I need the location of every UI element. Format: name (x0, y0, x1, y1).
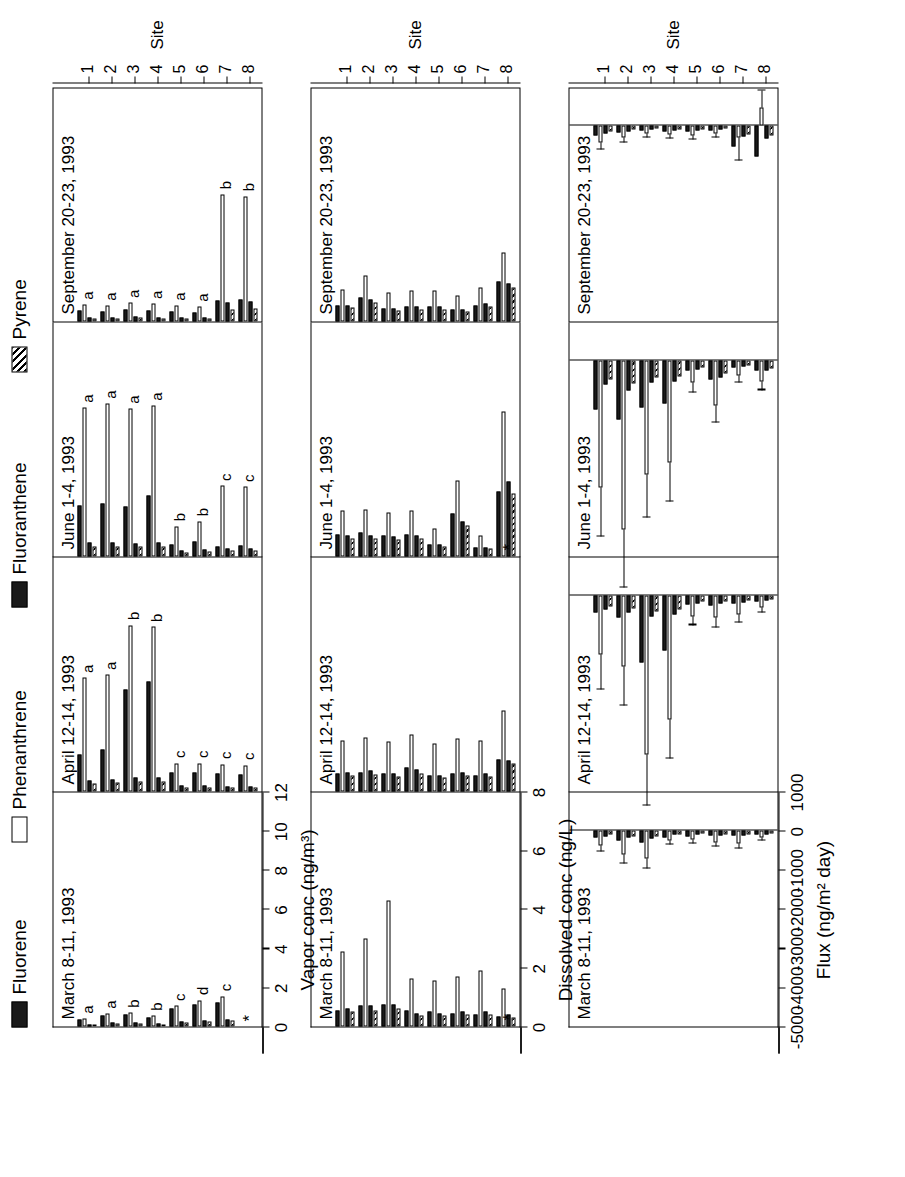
site-tick-dissolved-5 (438, 76, 439, 83)
bar-vapor-site7-fluorene (215, 546, 219, 556)
bar-dissolved-site6-fluorene (450, 1013, 454, 1026)
bar-dissolved-site2-phenanthrene (363, 737, 367, 791)
bar-dissolved-site6-fluoranthene (460, 309, 464, 321)
bar-dissolved-site3-fluoranthene (391, 1004, 395, 1026)
significance-letter-vapor-site2: a (101, 390, 118, 398)
bar-vapor-site7-fluoranthene (225, 548, 229, 556)
bar-vapor-site2-phenanthrene (105, 1013, 109, 1026)
error-cap-flux-site6 (711, 845, 719, 846)
bar-flux-site1-pyrene (608, 595, 612, 606)
bar-flux-site7-phenanthrene (736, 125, 740, 137)
bar-flux-site4-phenanthrene (667, 830, 671, 840)
bar-dissolved-site5-pyrene (442, 546, 446, 556)
bar-flux-site8-pyrene (769, 595, 773, 599)
site-tick-flux-4 (673, 76, 674, 83)
bar-vapor-site3-fluoranthene (133, 777, 137, 791)
bar-dissolved-site3-pyrene (396, 539, 400, 556)
bar-vapor-site1-fluoranthene (87, 1024, 91, 1026)
bar-vapor-site6-fluorene (192, 541, 196, 556)
bar-vapor-site5-pyrene (184, 552, 188, 556)
bar-dissolved-site7-phenanthrene (478, 970, 482, 1026)
bar-vapor-site1-phenanthrene (82, 407, 86, 556)
bar-dissolved-site6-fluoranthene (460, 1011, 464, 1026)
legend-label-phenanthrene: Phenanthrene (8, 690, 30, 809)
legend-swatch-phenanthrene (11, 816, 27, 842)
site-tick-flux-7 (742, 76, 743, 83)
bar-flux-site5-fluorene (685, 595, 689, 604)
site-tick-dissolved-8 (507, 76, 508, 83)
error-cap-flux-site7 (734, 621, 742, 622)
legend-item-fluorene: Fluorene (8, 919, 30, 1027)
bar-dissolved-site6-pyrene (465, 1014, 469, 1026)
bar-vapor-site4-pyrene (161, 1024, 165, 1026)
bar-dissolved-site6-phenanthrene (455, 295, 459, 321)
site-tick-vapor-3 (134, 76, 135, 83)
site-tick-flux-5 (696, 76, 697, 83)
bar-flux-site5-pyrene (700, 125, 704, 129)
bar-vapor-site8-fluorene (238, 774, 242, 791)
significance-letter-vapor-site7: c (216, 983, 233, 991)
site-tick-flux-8 (765, 76, 766, 83)
bar-dissolved-site3-pyrene (396, 1008, 400, 1026)
bar-dissolved-site7-fluoranthene (483, 773, 487, 791)
panel-vapor-1: March 8-11, 1993aabbcdc* (52, 792, 262, 1027)
bar-vapor-site7-fluorene (215, 300, 219, 321)
bar-vapor-site8-fluorene (238, 545, 242, 556)
value-tick-label-dissolved-0: 0 (529, 995, 549, 1059)
site-tick-label-dissolved-1: 1 (336, 64, 354, 73)
bar-dissolved-site7-fluorene (473, 305, 477, 321)
bar-vapor-site2-pyrene (115, 546, 119, 556)
value-axis-title-flux: Flux (ng/m² day) (812, 792, 834, 1027)
error-cap-flux-site7 (734, 847, 742, 848)
bar-dissolved-site2-pyrene (373, 1010, 377, 1026)
bar-flux-site1-fluoranthene (603, 595, 607, 609)
site-tick-vapor-5 (180, 76, 181, 83)
error-cap-flux-site5 (688, 391, 696, 392)
bar-vapor-site5-pyrene (184, 787, 188, 791)
bar-dissolved-site1-pyrene (350, 775, 354, 791)
error-cap-flux-site3 (642, 136, 650, 137)
bar-vapor-site2-fluorene (100, 311, 104, 321)
site-tick-label-vapor-6: 6 (193, 64, 211, 73)
bar-flux-site8-phenanthrene (759, 595, 763, 607)
site-axis-title-dissolved: Site (405, 20, 425, 49)
bar-dissolved-site5-fluoranthene (437, 544, 441, 556)
bar-vapor-site7-fluorene (215, 1002, 219, 1026)
bar-flux-site1-phenanthrene (598, 830, 602, 845)
bar-flux-site4-fluorene (662, 595, 666, 650)
bar-flux-site5-fluoranthene (695, 125, 699, 130)
bar-dissolved-site5-pyrene (442, 778, 446, 792)
bar-flux-site5-phenanthrene (690, 830, 694, 839)
bar-vapor-site5-fluoranthene (179, 1021, 183, 1026)
bar-vapor-site7-phenanthrene (220, 194, 224, 321)
error-cap-flux-site1 (596, 850, 604, 851)
bar-vapor-site3-fluorene (123, 309, 127, 321)
bar-flux-site5-pyrene (700, 830, 704, 833)
error-cap-flux-site5 (688, 842, 696, 843)
bar-vapor-site3-phenanthrene (128, 625, 132, 791)
bar-dissolved-site3-fluorene (381, 535, 385, 556)
site-tick-vapor-6 (203, 76, 204, 83)
panel-title-1: March 8-11, 1993 (316, 887, 336, 1019)
site-tick-vapor-4 (157, 76, 158, 83)
error-cap-flux-site4 (665, 757, 673, 758)
bar-flux-site7-phenanthrene (736, 595, 740, 614)
bar-dissolved-site3-fluorene (381, 1004, 385, 1026)
site-tick-vapor-8 (249, 76, 250, 83)
bar-vapor-site4-phenanthrene (151, 627, 155, 792)
bar-flux-site1-fluorene (593, 125, 597, 134)
annotation-star-dissolved-3: * (499, 543, 519, 550)
bar-dissolved-site3-phenanthrene (386, 741, 390, 791)
bar-vapor-site1-fluorene (77, 310, 81, 321)
bar-flux-site5-fluorene (685, 360, 689, 370)
bar-dissolved-site5-fluoranthene (437, 306, 441, 321)
bar-flux-site4-phenanthrene (667, 595, 671, 718)
site-tick-dissolved-2 (369, 76, 370, 83)
bar-dissolved-site4-fluoranthene (414, 769, 418, 791)
plot-row-vapor-conc: March 8-11, 1993aabbcdc*April 12-14, 199… (52, 87, 262, 1027)
bar-vapor-site6-phenanthrene (197, 306, 201, 321)
annotation-star-dissolved-1: * (499, 1013, 519, 1020)
bar-vapor-site7-phenanthrene (220, 996, 224, 1026)
value-tick-label-dissolved-2: 4 (529, 878, 549, 942)
error-cap-flux-site5 (688, 623, 696, 624)
